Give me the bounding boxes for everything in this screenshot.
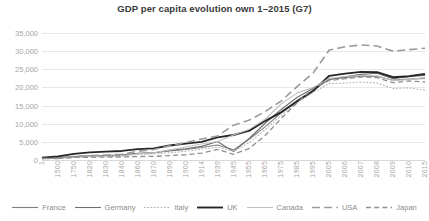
legend-swatch-canada	[247, 204, 273, 211]
legend-swatch-japan	[366, 204, 392, 211]
legend-swatch-italy	[144, 204, 170, 211]
x-axis-tick-label: 1975	[277, 161, 284, 177]
legend-item-uk[interactable]: UK	[197, 203, 237, 212]
x-axis-tick-label: 1830	[102, 161, 109, 177]
y-axis-tick-label: 10,000	[0, 119, 38, 128]
series-line-usa	[42, 45, 425, 159]
plot-area	[42, 33, 425, 160]
x-axis-tick-label: 1985	[293, 161, 300, 177]
x-axis-tick-label: 1965	[261, 161, 268, 177]
chart-legend: FranceGermanyItalyUKCanadaUSAJapan	[0, 199, 429, 215]
x-axis-tick-label: 1	[38, 161, 45, 165]
x-axis-tick-label: 1890	[166, 161, 173, 177]
x-axis-tick-label: 1955	[245, 161, 252, 177]
x-axis-tick-label: 1860	[134, 161, 141, 177]
x-axis-tick-label: 2010	[405, 161, 412, 177]
legend-label: Canada	[277, 203, 303, 212]
series-line-canada	[42, 75, 425, 158]
x-axis-tick-label: 1820	[86, 161, 93, 177]
y-axis-tick-label: 35,000	[0, 29, 38, 38]
x-axis: 1150017501820183018401860187018901900191…	[42, 161, 425, 195]
series-layer	[42, 33, 425, 160]
series-svg	[42, 33, 425, 160]
legend-swatch-uk	[197, 204, 223, 211]
y-axis-tick-label: 5,000	[0, 137, 38, 146]
x-axis-tick-label: 2007	[357, 161, 364, 177]
y-axis-tick-label: 15,000	[0, 101, 38, 110]
series-line-germany	[42, 73, 425, 158]
x-axis-tick-label: 2006	[341, 161, 348, 177]
x-axis-tick-label: 2009	[389, 161, 396, 177]
legend-item-canada[interactable]: Canada	[247, 203, 303, 212]
legend-item-france[interactable]: France	[12, 203, 65, 212]
legend-item-japan[interactable]: Japan	[366, 203, 416, 212]
series-line-france	[42, 76, 425, 158]
x-axis-tick-label: 1500	[54, 161, 61, 177]
legend-label: France	[42, 203, 65, 212]
legend-label: Italy	[174, 203, 188, 212]
legend-item-usa[interactable]: USA	[312, 203, 357, 212]
legend-item-germany[interactable]: Germany	[75, 203, 136, 212]
legend-label: UK	[227, 203, 237, 212]
legend-swatch-germany	[75, 204, 101, 211]
x-axis-tick-label: 1870	[150, 161, 157, 177]
y-axis-tick-label: 0	[0, 156, 38, 165]
legend-swatch-france	[12, 204, 38, 211]
chart-title: GDP per capita evolution own 1–2015 (G7)	[0, 3, 429, 14]
x-axis-tick-label: 2008	[373, 161, 380, 177]
gdp-line-chart: GDP per capita evolution own 1–2015 (G7)…	[0, 0, 429, 221]
x-axis-tick-label: 1945	[230, 161, 237, 177]
x-axis-tick-label: 1939	[214, 161, 221, 177]
legend-label: Japan	[396, 203, 416, 212]
y-axis: 05,00010,00015,00020,00025,00030,00035,0…	[0, 33, 38, 160]
legend-swatch-usa	[312, 204, 338, 211]
y-axis-tick-label: 20,000	[0, 83, 38, 92]
series-line-uk	[42, 72, 425, 158]
x-axis-tick-label: 1840	[118, 161, 125, 177]
x-axis-tick-label: 2015	[421, 161, 428, 177]
y-axis-tick-label: 25,000	[0, 65, 38, 74]
series-line-japan	[42, 77, 425, 159]
x-axis-tick-label: 1995	[309, 161, 316, 177]
x-axis-tick-label: 1914	[198, 161, 205, 177]
x-axis-tick-label: 1900	[182, 161, 189, 177]
x-axis-tick-label: 1750	[70, 161, 77, 177]
y-axis-tick-label: 30,000	[0, 47, 38, 56]
x-axis-tick-label: 2005	[325, 161, 332, 177]
legend-label: USA	[342, 203, 357, 212]
series-line-italy	[42, 82, 425, 157]
legend-item-italy[interactable]: Italy	[144, 203, 188, 212]
legend-label: Germany	[105, 203, 136, 212]
